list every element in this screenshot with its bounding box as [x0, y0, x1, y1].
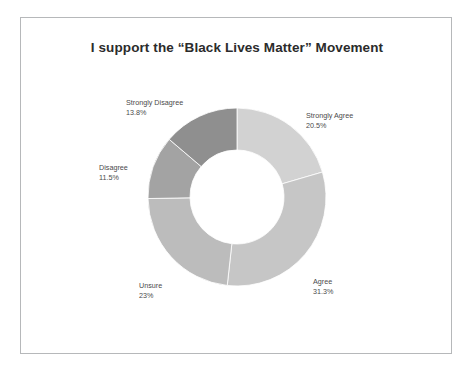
chart-frame: I support the “Black Lives Matter” Movem… [20, 17, 452, 354]
slice-label-unsure-name: Unsure [139, 281, 162, 290]
slice-label-unsure-value: 23% [139, 291, 162, 301]
donut-slice-unsure[interactable] [148, 198, 232, 286]
slice-label-agree-name: Agree [313, 277, 332, 286]
donut-chart: Strongly Agree 20.5% Agree 31.3% Unsure … [21, 18, 453, 355]
slice-label-strongly-agree: Strongly Agree 20.5% [306, 111, 353, 130]
slice-label-strongly-disagree-name: Strongly Disagree [126, 98, 183, 107]
slice-label-agree: Agree 31.3% [313, 277, 333, 296]
donut-slice-group [148, 108, 326, 286]
slice-label-strongly-agree-name: Strongly Agree [306, 111, 353, 120]
donut-chart-svg [21, 18, 453, 355]
donut-slice-agree[interactable] [227, 172, 326, 286]
slice-label-disagree-name: Disagree [99, 163, 128, 172]
slice-label-disagree-value: 11.5% [99, 173, 128, 183]
slice-label-agree-value: 31.3% [313, 287, 333, 297]
slice-label-strongly-agree-value: 20.5% [306, 121, 353, 131]
slice-label-unsure: Unsure 23% [139, 281, 162, 300]
slice-label-disagree: Disagree 11.5% [99, 163, 128, 182]
slice-label-strongly-disagree: Strongly Disagree 13.8% [126, 98, 183, 117]
slice-label-strongly-disagree-value: 13.8% [126, 108, 183, 118]
